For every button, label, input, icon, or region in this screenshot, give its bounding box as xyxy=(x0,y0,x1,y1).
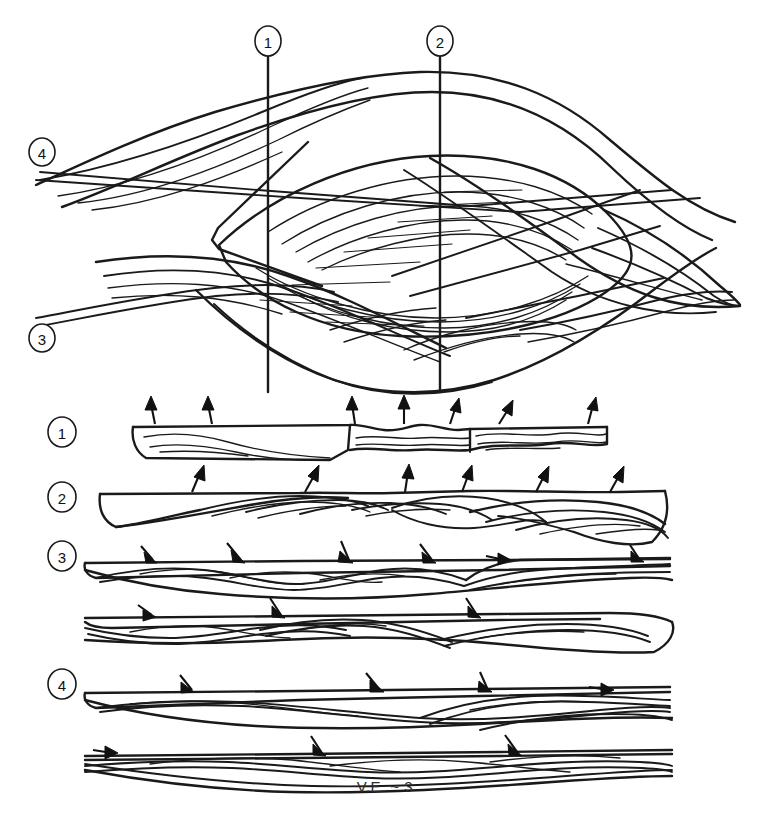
section-marker-4-left[interactable]: 4 xyxy=(29,138,55,166)
strip-section-4: 4 xyxy=(48,669,672,730)
arrow-up xyxy=(202,396,214,424)
arrow-up xyxy=(610,466,624,492)
section-marker-2-label: 2 xyxy=(436,34,444,51)
arrow-down-right xyxy=(141,546,157,563)
arrow-up xyxy=(346,396,358,424)
arrow-up xyxy=(145,396,157,424)
arrow-up xyxy=(398,395,410,424)
strip-section-2: 2 xyxy=(48,464,668,544)
arrow-up xyxy=(536,466,549,492)
arrow-up xyxy=(499,400,513,424)
geological-figure: 1 2 4 3 1 xyxy=(0,0,764,822)
arrow-up-right xyxy=(180,675,194,693)
section-marker-3-left[interactable]: 3 xyxy=(29,324,55,352)
strip-section-1: 1 xyxy=(48,395,607,460)
section-marker-1-label: 1 xyxy=(264,34,272,51)
main-fold-block xyxy=(36,72,740,394)
arrow-up xyxy=(192,465,205,492)
strip-4-label: 4 xyxy=(58,677,66,694)
strip-2-arrows xyxy=(192,464,624,492)
section-marker-2[interactable]: 2 xyxy=(427,26,453,56)
section-marker-4-left-label: 4 xyxy=(38,145,46,162)
strip-section-unlabeled-a xyxy=(85,598,673,653)
section-marker-3-left-label: 3 xyxy=(38,331,46,348)
strip-1-arrows xyxy=(145,395,598,424)
arrow-up xyxy=(450,398,461,424)
section-marker-1[interactable]: 1 xyxy=(255,26,281,56)
arrow-down-right xyxy=(227,543,245,563)
strip-section-3: 3 xyxy=(48,541,672,599)
strip-2-label: 2 xyxy=(58,490,66,507)
strip-1-label: 1 xyxy=(58,425,66,442)
arrow-up xyxy=(402,464,414,492)
arrow-up xyxy=(587,397,598,424)
arrow-up xyxy=(305,465,319,492)
strip-3-label: 3 xyxy=(58,549,66,566)
vertical-exaggeration-caption: V.E. ~ 3 xyxy=(357,778,413,795)
arrow-up xyxy=(462,465,473,492)
